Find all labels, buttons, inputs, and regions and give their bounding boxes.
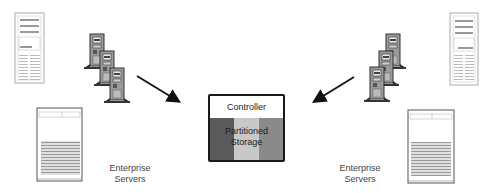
- right-arrow-icon: [315, 77, 354, 101]
- left-servers-label: Enterprise Servers: [104, 163, 156, 185]
- controller-section: Controller: [210, 96, 283, 118]
- storage-label-line1: Partitioned: [210, 126, 283, 136]
- left-label-line1: Enterprise: [104, 163, 156, 174]
- left-small-tower-server-icon: [15, 13, 44, 83]
- storage-label-line2: Storage: [210, 137, 283, 147]
- right-servers-label: Enterprise Servers: [334, 163, 386, 185]
- left-arrow-icon: [137, 76, 178, 101]
- controller-label: Controller: [210, 102, 283, 112]
- storage-unit: Controller Partitioned Storage: [208, 94, 285, 162]
- left-tower-cluster-icon: [84, 34, 130, 103]
- right-large-server-icon: [408, 110, 454, 183]
- right-tower-cluster-icon: [364, 34, 406, 102]
- left-label-line2: Servers: [104, 174, 156, 185]
- right-small-tower-server-icon: [450, 13, 478, 85]
- left-large-server-icon: [37, 108, 82, 181]
- right-label-line2: Servers: [334, 174, 386, 185]
- right-label-line1: Enterprise: [334, 163, 386, 174]
